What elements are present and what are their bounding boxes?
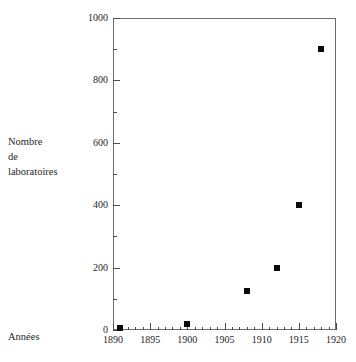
x-axis-minor-tick	[217, 327, 218, 330]
x-axis-minor-tick	[202, 327, 203, 330]
x-axis-minor-tick	[165, 327, 166, 330]
x-axis-minor-tick	[247, 327, 248, 330]
data-point-marker	[244, 288, 250, 294]
x-axis-minor-tick	[135, 327, 136, 330]
plot-area	[113, 18, 336, 330]
y-axis-minor-tick	[113, 236, 117, 237]
x-axis-tick-label: 1905	[208, 334, 242, 345]
y-axis-minor-tick	[113, 49, 117, 50]
y-axis-minor-tick	[113, 174, 117, 175]
y-axis-tick-label-text: 1000	[74, 13, 108, 23]
x-axis-minor-tick	[143, 327, 144, 330]
x-axis-minor-tick	[239, 327, 240, 330]
y-axis-tick-label-text: 800	[74, 75, 108, 85]
x-axis-minor-tick	[195, 327, 196, 330]
x-axis-minor-tick	[210, 327, 211, 330]
x-axis-tick-label: 1920	[319, 334, 353, 345]
x-axis-minor-tick	[321, 327, 322, 330]
data-point-marker	[184, 321, 190, 327]
data-point-marker	[318, 46, 324, 52]
x-axis-tick	[225, 323, 226, 330]
x-axis-minor-tick	[314, 327, 315, 330]
y-axis-tick-label-text: 200	[74, 263, 108, 273]
x-axis-minor-tick	[172, 327, 173, 330]
y-axis-label-line-2: de	[8, 149, 104, 164]
y-axis-tick-label-text: 400	[74, 200, 108, 210]
y-axis-tick	[113, 143, 120, 144]
x-axis-minor-tick	[284, 327, 285, 330]
x-axis-minor-tick	[291, 327, 292, 330]
x-axis-minor-tick	[232, 327, 233, 330]
y-axis-tick	[113, 205, 120, 206]
x-axis-minor-tick	[128, 327, 129, 330]
x-axis-tick-label: 1895	[133, 334, 167, 345]
y-axis-minor-tick	[113, 299, 117, 300]
x-axis-tick	[262, 323, 263, 330]
x-axis-minor-tick	[254, 327, 255, 330]
data-point-marker	[296, 202, 302, 208]
y-axis-tick-label-text: 600	[74, 138, 108, 148]
x-axis-minor-tick	[306, 327, 307, 330]
x-axis-minor-tick	[158, 327, 159, 330]
x-axis-tick	[336, 323, 337, 330]
x-axis-tick-label: 1900	[170, 334, 204, 345]
data-point-marker	[274, 265, 280, 271]
x-axis-minor-tick	[329, 327, 330, 330]
x-axis-minor-tick	[180, 327, 181, 330]
y-axis-label-line-3: laboratoires	[8, 164, 104, 179]
x-axis-tick	[299, 323, 300, 330]
chart-figure: Nombre de laboratoires Années 0200400600…	[0, 0, 356, 362]
y-axis-tick	[113, 268, 120, 269]
data-point-marker	[117, 325, 123, 331]
x-axis-minor-tick	[269, 327, 270, 330]
y-axis-minor-tick	[113, 112, 117, 113]
x-axis-tick-label: 1890	[96, 334, 130, 345]
y-axis-tick	[113, 18, 120, 19]
x-axis-tick	[150, 323, 151, 330]
x-axis-tick-label: 1910	[245, 334, 279, 345]
x-axis-minor-tick	[277, 327, 278, 330]
x-axis-tick	[113, 323, 114, 330]
x-axis-tick-label: 1915	[282, 334, 316, 345]
y-axis-tick	[113, 80, 120, 81]
